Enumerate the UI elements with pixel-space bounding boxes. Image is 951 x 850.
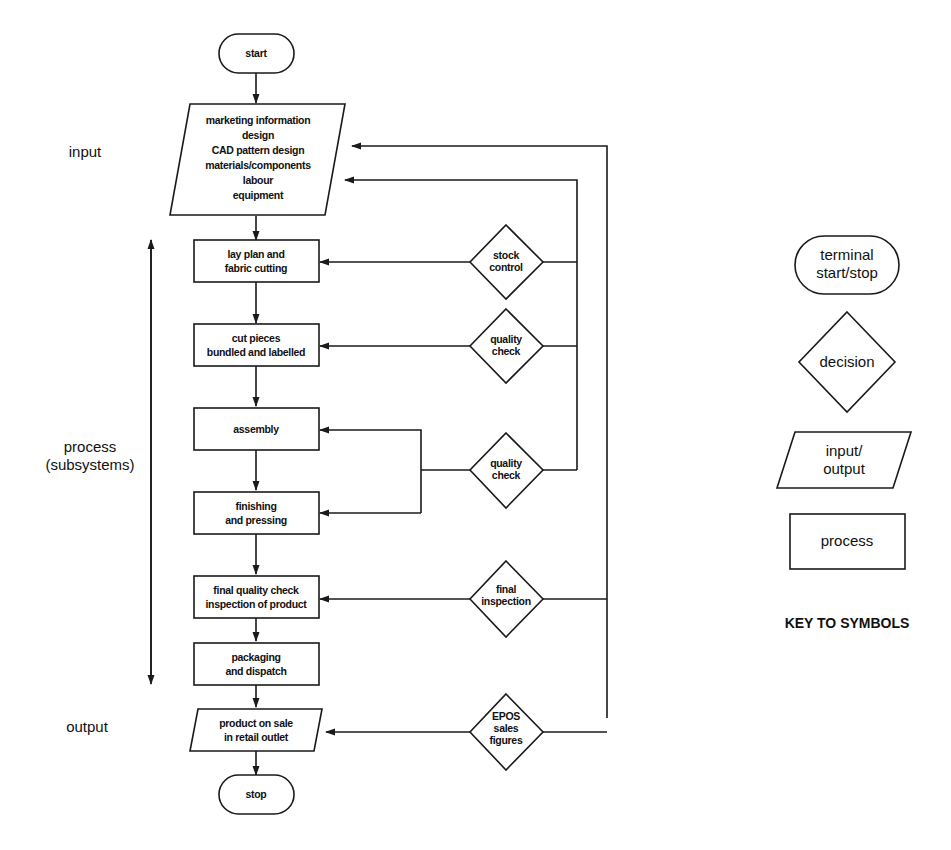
- decision-label: control: [489, 261, 523, 273]
- process-box-shape: [194, 324, 319, 366]
- input-line: design: [242, 129, 274, 141]
- input-line: CAD pattern design: [212, 144, 305, 156]
- terminal-start: start: [219, 34, 294, 73]
- decision-quality-check-2: quality check: [470, 433, 543, 508]
- key-decision-label: decision: [819, 353, 874, 370]
- decision-final-inspection: final inspection: [470, 561, 543, 637]
- stage-label-process: process: [64, 438, 117, 455]
- process-box-shape: [194, 492, 319, 534]
- process-label: and dispatch: [225, 665, 286, 677]
- decision-label: final: [496, 583, 516, 595]
- process-label: packaging: [231, 651, 280, 663]
- key-terminal-label: start/stop: [816, 264, 878, 281]
- stage-label-process-sub: (subsystems): [45, 456, 134, 473]
- input-line: labour: [243, 174, 273, 186]
- process-label: finishing: [235, 500, 276, 512]
- key-title: KEY TO SYMBOLS: [785, 615, 910, 631]
- key-terminal-label: terminal: [820, 246, 873, 263]
- decision-stock-control: stock control: [470, 225, 543, 299]
- arrow-quality-check-2-to-assembly: [320, 430, 421, 513]
- flowchart-canvas: start stop marketing information design …: [0, 0, 951, 850]
- decision-label: sales: [494, 722, 519, 734]
- decision-label: EPOS: [492, 710, 520, 722]
- process-label: bundled and labelled: [207, 346, 305, 358]
- key-input-output: input/ output: [777, 432, 911, 488]
- process-label: cut pieces: [232, 332, 281, 344]
- feedback-connectors: [320, 146, 607, 732]
- output-line: product on sale: [219, 717, 293, 729]
- output-line: in retail outlet: [224, 731, 289, 743]
- decision-label: check: [492, 345, 521, 357]
- stage-label-input: input: [69, 143, 102, 160]
- process-label: final quality check: [213, 584, 299, 596]
- process-cut-pieces: cut pieces bundled and labelled: [194, 324, 319, 366]
- process-box-shape: [194, 240, 319, 282]
- input-line: materials/components: [205, 159, 311, 171]
- process-packaging: packaging and dispatch: [194, 643, 319, 685]
- feedback-outer-to-input: [352, 146, 607, 718]
- process-label: fabric cutting: [225, 262, 287, 274]
- decision-label: figures: [490, 734, 523, 746]
- input-box: marketing information design CAD pattern…: [170, 104, 345, 215]
- output-box: product on sale in retail outlet: [190, 709, 322, 751]
- key-process-label: process: [821, 532, 874, 549]
- key-to-symbols: terminal start/stop decision input/ outp…: [777, 236, 911, 631]
- key-process: process: [790, 514, 905, 569]
- decision-label: inspection: [481, 595, 531, 607]
- decision-label: check: [492, 469, 521, 481]
- stage-label-output: output: [66, 718, 109, 735]
- process-label: assembly: [233, 423, 279, 435]
- process-assembly: assembly: [194, 408, 319, 450]
- process-finishing: finishing and pressing: [194, 492, 319, 534]
- decision-label: quality: [490, 333, 522, 345]
- terminal-start-label: start: [245, 47, 267, 59]
- feedback-inner-to-input: [345, 180, 577, 470]
- output-box-shape: [190, 709, 322, 751]
- process-label: inspection of product: [205, 598, 307, 610]
- input-line: marketing information: [206, 114, 311, 126]
- process-label: and pressing: [225, 514, 287, 526]
- process-box-shape: [194, 576, 319, 618]
- input-line: equipment: [233, 189, 284, 201]
- key-decision: decision: [799, 312, 895, 412]
- key-input-output-label: input/: [826, 442, 864, 459]
- terminal-stop-label: stop: [246, 788, 267, 800]
- process-lay-plan: lay plan and fabric cutting: [194, 240, 319, 282]
- stage-labels: input process (subsystems) output: [45, 143, 151, 735]
- decision-epos-sales-figures: EPOS sales figures: [470, 694, 543, 770]
- decision-quality-check-1: quality check: [470, 309, 543, 383]
- process-final-quality-check: final quality check inspection of produc…: [194, 576, 319, 618]
- key-terminal: terminal start/stop: [795, 236, 899, 294]
- process-box-shape: [194, 643, 319, 685]
- terminal-stop: stop: [219, 775, 294, 814]
- decision-label: stock: [493, 249, 519, 261]
- key-input-output-label: output: [823, 460, 866, 477]
- process-label: lay plan and: [227, 248, 284, 260]
- decision-label: quality: [490, 457, 522, 469]
